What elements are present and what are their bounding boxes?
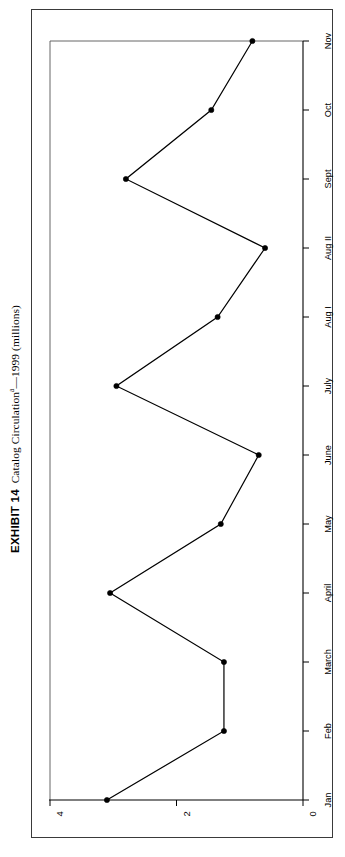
chart-axes xyxy=(49,41,309,806)
data-point-july[interactable] xyxy=(114,383,119,388)
month-label-nov: Nov xyxy=(323,33,333,49)
data-point-feb[interactable] xyxy=(221,728,226,733)
month-label-sept: Sept xyxy=(323,170,333,189)
chart-markers xyxy=(104,38,267,802)
chart-plot-svg xyxy=(31,9,333,838)
exhibit-title-suffix: —1999 (millions) xyxy=(9,304,21,388)
data-point-aug-i[interactable] xyxy=(215,314,220,319)
exhibit-page: EXHIBIT 14 Catalog Circulationa—1999 (mi… xyxy=(0,0,345,857)
data-point-may[interactable] xyxy=(218,521,223,526)
chart-series-catalog-circulation xyxy=(107,41,265,800)
line-chart: JanFebMarchAprilMayJuneJulyAug IAug IISe… xyxy=(31,9,333,838)
data-point-april[interactable] xyxy=(107,590,112,595)
month-label-aug-i: Aug I xyxy=(323,306,333,327)
month-label-june: June xyxy=(323,445,333,465)
data-point-june[interactable] xyxy=(256,452,261,457)
circulation-label-4: 4 xyxy=(54,811,65,816)
month-label-march: March xyxy=(323,649,333,675)
exhibit-title-text: EXHIBIT 14 Catalog Circulationa—1999 (mi… xyxy=(7,304,21,552)
data-point-aug-ii[interactable] xyxy=(262,245,267,250)
data-point-sept[interactable] xyxy=(123,176,128,181)
exhibit-title: EXHIBIT 14 Catalog Circulationa—1999 (mi… xyxy=(0,0,28,857)
circulation-label-0: 0 xyxy=(307,811,318,816)
month-label-july: July xyxy=(323,378,333,394)
month-label-feb: Feb xyxy=(323,723,333,739)
data-point-nov[interactable] xyxy=(250,38,255,43)
month-label-may: May xyxy=(323,515,333,532)
exhibit-number: EXHIBIT 14 xyxy=(8,489,21,553)
month-label-april: April xyxy=(323,584,333,602)
circulation-label-2: 2 xyxy=(181,811,192,816)
month-label-oct: Oct xyxy=(323,103,333,117)
month-label-jan: Jan xyxy=(323,793,333,808)
exhibit-title-main: Catalog Circulation xyxy=(9,391,21,482)
data-point-oct[interactable] xyxy=(209,107,214,112)
data-point-march[interactable] xyxy=(221,659,226,664)
circulation-line xyxy=(107,41,265,800)
data-point-jan[interactable] xyxy=(104,797,109,802)
month-label-aug-ii: Aug II xyxy=(323,236,333,260)
